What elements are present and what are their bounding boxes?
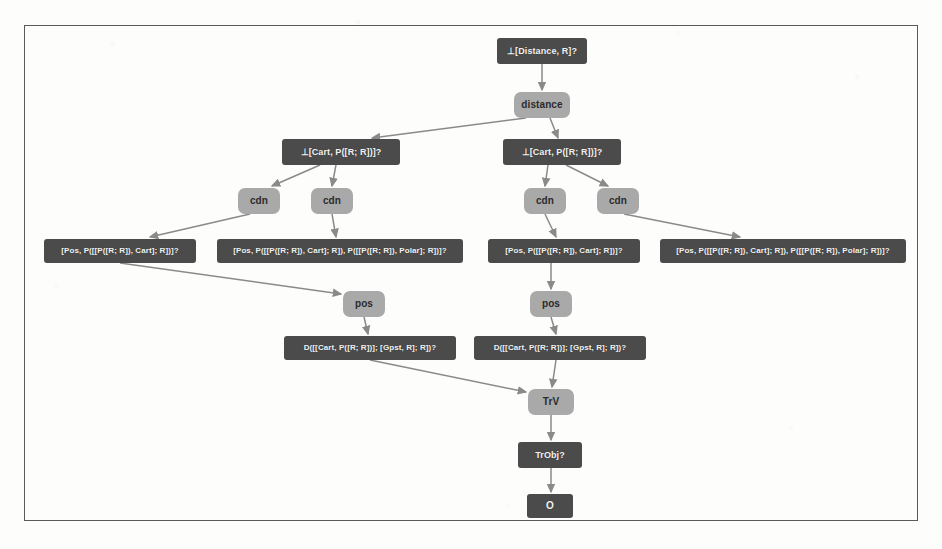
edge-cartR-to-cdn4 xyxy=(566,165,608,186)
graph-node-label: cdn xyxy=(250,196,268,206)
graph-node-dL[interactable]: D([[Cart, P([R; R])]; [Gpst, R]; R])? xyxy=(284,336,456,360)
graph-node-label: TrV xyxy=(543,397,559,407)
edge-cartL-to-cdn2 xyxy=(332,165,336,186)
graph-node-cdn3[interactable]: cdn xyxy=(524,188,566,214)
graph-node-label: ⊥[Cart, P([R; R])]? xyxy=(301,148,382,157)
graph-node-label: [Pos, P([[P([R; R]), Cart]; R]), P([[P([… xyxy=(233,247,447,255)
edge-cartR-to-cdn3 xyxy=(545,165,548,186)
graph-node-label: ⊥[Cart, P([R; R])]? xyxy=(522,148,603,157)
graph-node-label: D([[Cart, P([R; R])]; [Gpst, R]; R])? xyxy=(304,344,437,352)
graph-node-label: cdn xyxy=(323,196,341,206)
graph-node-label: cdn xyxy=(609,196,627,206)
graph-node-cartR[interactable]: ⊥[Cart, P([R; R])]? xyxy=(503,139,621,165)
edge-cdn1-to-posL1 xyxy=(150,214,250,237)
graph-node-cdn4[interactable]: cdn xyxy=(597,188,639,214)
edge-dL-to-trv xyxy=(370,360,526,392)
graph-node-posR1[interactable]: [Pos, P([[P([R; R]), Cart]; R])]? xyxy=(488,239,640,263)
graph-node-cartL[interactable]: ⊥[Cart, P([R; R])]? xyxy=(282,139,400,165)
graph-node-posR2[interactable]: [Pos, P([[P([R; R]), Cart]; R]), P([[P([… xyxy=(660,239,906,263)
edge-posLsm-to-dL xyxy=(364,317,368,334)
graph-node-posRsm[interactable]: pos xyxy=(530,291,572,317)
graph-node-trv[interactable]: TrV xyxy=(528,389,574,415)
edge-cdn4-to-posR2 xyxy=(624,214,740,237)
graph-node-label: [Pos, P([[P([R; R]), Cart]; R]), P([[P([… xyxy=(676,247,890,255)
graph-node-cdn1[interactable]: cdn xyxy=(238,188,280,214)
graph-node-posL2[interactable]: [Pos, P([[P([R; R]), Cart]; R]), P([[P([… xyxy=(217,239,463,263)
edge-posRsm-to-dR xyxy=(551,317,556,334)
graph-node-label: [Pos, P([[P([R; R]), Cart]; R])]? xyxy=(61,247,179,255)
edge-posL1-to-posLsm xyxy=(120,263,341,294)
graph-node-cdn2[interactable]: cdn xyxy=(311,188,353,214)
graph-node-root[interactable]: ⊥[Distance, R]? xyxy=(497,38,587,64)
graph-node-label: distance xyxy=(521,100,562,110)
diagram-edges-layer xyxy=(0,0,942,549)
graph-node-label: pos xyxy=(355,299,373,309)
graph-node-trobj[interactable]: TrObj? xyxy=(518,442,582,468)
graph-node-label: O xyxy=(546,501,554,511)
graph-node-label: pos xyxy=(542,299,560,309)
graph-node-posLsm[interactable]: pos xyxy=(343,291,385,317)
edge-cdn3-to-posR1 xyxy=(545,214,556,237)
graph-node-distance[interactable]: distance xyxy=(514,92,570,118)
edges-group xyxy=(120,64,740,492)
edge-distance-to-cartR xyxy=(550,118,558,138)
graph-node-label: [Pos, P([[P([R; R]), Cart]; R])]? xyxy=(505,247,623,255)
graph-node-label: TrObj? xyxy=(535,451,565,460)
scanned-figure-page: ⊥[Distance, R]?distance⊥[Cart, P([R; R])… xyxy=(0,0,942,549)
graph-node-label: cdn xyxy=(536,196,554,206)
edge-distance-to-cartL xyxy=(372,118,526,138)
graph-node-label: D([[Cart, P([R; R])]; [Gpst, R]; R])? xyxy=(494,344,627,352)
edge-cdn2-to-posL2 xyxy=(332,214,336,237)
graph-node-o[interactable]: O xyxy=(527,494,573,518)
edge-cartL-to-cdn1 xyxy=(272,165,320,186)
graph-node-dR[interactable]: D([[Cart, P([R; R])]; [Gpst, R]; R])? xyxy=(474,336,646,360)
graph-node-posL1[interactable]: [Pos, P([[P([R; R]), Cart]; R])]? xyxy=(44,239,196,263)
edge-dR-to-trv xyxy=(552,360,556,387)
graph-node-label: ⊥[Distance, R]? xyxy=(507,47,577,56)
